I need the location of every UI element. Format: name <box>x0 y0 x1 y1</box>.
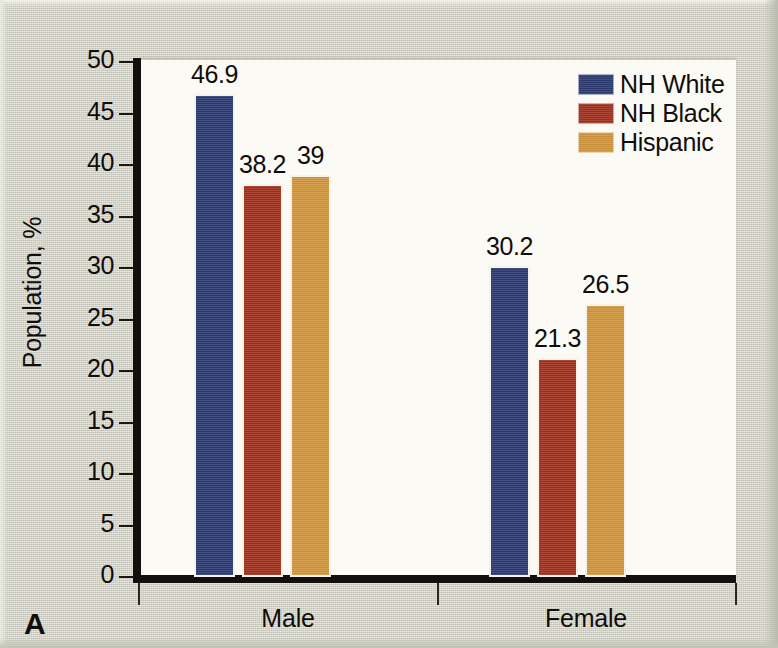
y-axis-tick <box>119 576 134 578</box>
y-axis-tick <box>119 370 134 372</box>
y-axis-tick-label: 40 <box>54 148 114 177</box>
y-axis-tick-label: 20 <box>54 354 114 383</box>
y-axis-tick <box>119 473 134 475</box>
legend-label: NH Black <box>620 99 722 128</box>
y-axis-tick <box>119 164 134 166</box>
y-axis-tick-label: 35 <box>54 200 114 229</box>
scan-edge-top <box>0 0 778 6</box>
y-axis-tick <box>119 319 134 321</box>
y-axis-tick-label: 30 <box>54 251 114 280</box>
legend-swatch <box>578 132 614 153</box>
legend-swatch <box>578 103 614 124</box>
legend-label: NH White <box>620 70 725 99</box>
y-axis-tick-label: 5 <box>54 509 114 538</box>
y-axis-tick-label: 15 <box>54 406 114 435</box>
legend-swatch <box>578 74 614 95</box>
bar <box>537 358 578 577</box>
y-axis-tick-label: 10 <box>54 457 114 486</box>
bar-value-label: 39 <box>261 141 361 170</box>
x-axis-category-label: Female <box>486 604 686 633</box>
legend: NH WhiteNH BlackHispanic <box>578 71 725 158</box>
y-axis-tick-label: 25 <box>54 303 114 332</box>
legend-item: NH White <box>578 71 725 98</box>
bar <box>242 184 283 577</box>
scan-edge-left <box>0 0 7 648</box>
y-axis-tick <box>119 113 134 115</box>
y-axis-line <box>133 58 141 581</box>
y-axis-tick-label: 0 <box>54 560 114 589</box>
x-axis-category-label: Male <box>188 604 388 633</box>
y-axis-tick <box>119 422 134 424</box>
legend-label: Hispanic <box>620 128 713 157</box>
legend-item: Hispanic <box>578 129 725 156</box>
legend-item: NH Black <box>578 100 725 127</box>
y-axis-tick <box>119 61 134 63</box>
bar <box>290 175 331 577</box>
y-axis-tick-label: 45 <box>54 97 114 126</box>
bar-value-label: 26.5 <box>556 270 656 299</box>
scan-edge-bottom <box>0 638 778 648</box>
y-axis-tick <box>119 267 134 269</box>
y-axis-tick <box>119 216 134 218</box>
y-axis-tick-label: 50 <box>54 45 114 74</box>
x-axis-tick <box>735 583 737 605</box>
bar-value-label: 21.3 <box>508 324 608 353</box>
y-axis-tick <box>119 525 134 527</box>
x-axis-tick <box>437 583 439 605</box>
scan-edge-right <box>764 0 778 648</box>
bar-value-label: 30.2 <box>460 232 560 261</box>
panel-label: A <box>24 607 46 641</box>
bar-value-label: 46.9 <box>165 60 265 89</box>
figure-panel-a: Population, % 50454035302520151050 MaleF… <box>0 0 778 648</box>
bar <box>489 266 530 577</box>
y-axis-title: Population, % <box>18 203 47 383</box>
x-axis-tick <box>138 583 140 605</box>
